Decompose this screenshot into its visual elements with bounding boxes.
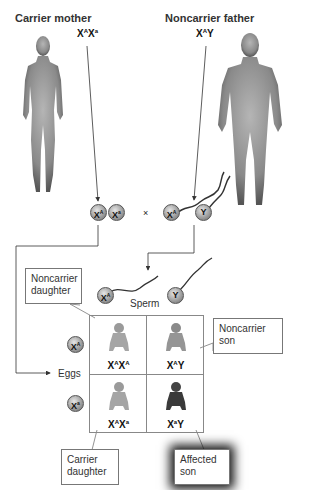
offspring-figure <box>166 322 186 356</box>
genotype-label: XAXA <box>90 360 147 371</box>
sperm-label: Sperm <box>130 298 159 309</box>
sperm-XA: XA <box>97 287 114 304</box>
callout-noncarrier-son: Noncarrierson <box>213 318 283 354</box>
punnett-cell-XaY: XaY <box>147 375 204 433</box>
mother-gamete-Xa: Xa <box>108 204 125 221</box>
punnett-cell-XAXa: XAXa <box>90 375 147 433</box>
callout-carrier-daughter: Carrierdaughter <box>61 449 119 485</box>
cross-symbol: × <box>143 208 148 218</box>
genotype-label: XaY <box>147 419 204 430</box>
punnett-cell-XAY: XAY <box>147 316 204 374</box>
affected-offspring-figure <box>166 381 186 415</box>
mother-gamete-XA: XA <box>90 204 107 221</box>
genotype-label: XAXa <box>90 419 147 430</box>
genotype-label: XAY <box>147 360 204 371</box>
offspring-figure <box>109 322 129 356</box>
offspring-figure <box>109 381 129 415</box>
eggs-label: Eggs <box>58 368 81 379</box>
callout-noncarrier-daughter: Noncarrierdaughter <box>25 268 82 304</box>
egg-XA: XA <box>67 336 84 353</box>
egg-Xa: Xa <box>67 395 84 412</box>
punnett-square: XAXA XAY XAXa XaY <box>89 315 204 433</box>
punnett-cell-XAXA: XAXA <box>90 316 147 374</box>
sperm-Y: Y <box>167 287 184 304</box>
callout-affected-son: Affectedson <box>174 449 230 485</box>
father-gamete-XA: XA <box>163 204 180 221</box>
father-gamete-Y: Y <box>195 204 212 221</box>
mother-figure <box>23 36 63 192</box>
